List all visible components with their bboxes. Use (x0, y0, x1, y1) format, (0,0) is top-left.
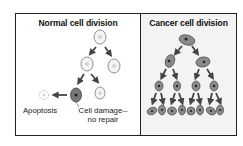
cancer-cells (146, 33, 223, 116)
cell-division-illustration (0, 0, 243, 146)
normal-cells (40, 30, 121, 107)
apoptosis-cell-icon (40, 91, 49, 100)
